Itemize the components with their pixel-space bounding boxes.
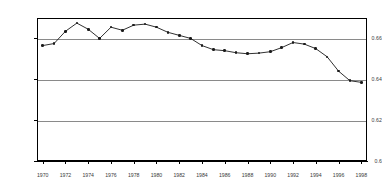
- data-point: [167, 31, 170, 34]
- data-point: [223, 49, 226, 52]
- series-line: [0, 0, 382, 192]
- data-point: [189, 37, 192, 40]
- data-point: [212, 48, 215, 51]
- data-point: [98, 37, 101, 40]
- data-point: [87, 28, 90, 31]
- data-point: [246, 52, 249, 55]
- data-point: [41, 44, 44, 47]
- data-point: [314, 47, 317, 50]
- data-point: [280, 46, 283, 49]
- line-chart: 0.60.620.640.66 197019721974197619781980…: [0, 0, 382, 192]
- data-point: [360, 81, 363, 84]
- data-point: [121, 29, 124, 32]
- series-polyline: [43, 23, 362, 82]
- data-point: [178, 34, 181, 37]
- data-point: [64, 30, 67, 33]
- data-point: [269, 50, 272, 53]
